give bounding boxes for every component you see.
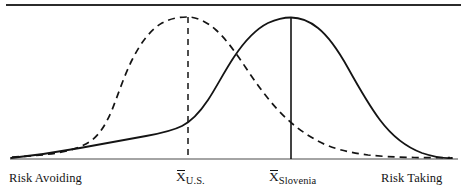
axis-label-risk-avoiding: Risk Avoiding	[9, 172, 82, 185]
distribution-chart-svg	[0, 0, 465, 195]
mean-subscript-slovenia: Slovenia	[279, 175, 317, 186]
distribution-figure: Risk Avoiding Risk Taking XU.S. XSloveni…	[0, 0, 465, 195]
curve-slovenia-solid	[11, 18, 452, 159]
mean-label-us: XU.S.	[176, 169, 205, 186]
x-bar-symbol-slovenia: X	[269, 169, 279, 184]
x-bar-symbol-us: X	[176, 169, 186, 184]
axis-label-risk-taking: Risk Taking	[381, 172, 442, 185]
mean-label-slovenia: XSlovenia	[269, 169, 316, 186]
curve-us-dashed	[12, 17, 450, 158]
mean-subscript-us: U.S.	[186, 175, 205, 186]
